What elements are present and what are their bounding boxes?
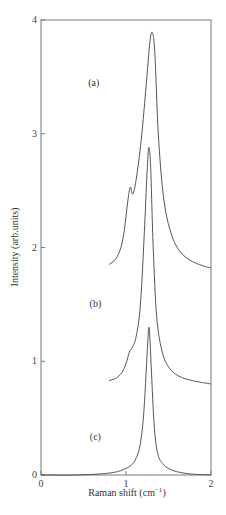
y-tick-label: 4 [32,14,37,25]
y-tick-label: 2 [32,242,37,253]
x-axis-label: Raman shift (cm−1) [88,486,165,499]
curve-label-a: (a) [88,77,99,89]
x-tick-label: 2 [209,478,214,489]
curve-c [41,327,211,475]
plot-border [41,20,211,475]
raman-chart: 01201234 (a)(b)(c) Raman shift (cm−1) In… [0,0,226,515]
curves [41,32,211,475]
plot-frame [41,20,211,475]
x-tick-label: 0 [39,478,44,489]
curve-label-c: (c) [90,431,101,443]
y-tick-label: 3 [32,128,37,139]
curve-label-b: (b) [90,298,102,310]
curve-labels: (a)(b)(c) [88,77,101,443]
y-tick-label: 1 [32,355,37,366]
y-axis-label: Intensity (arb.units) [9,208,21,287]
axis-ticks: 01201234 [32,14,214,489]
y-tick-label: 0 [32,469,37,480]
curve-b [109,147,211,384]
curve-a [109,32,211,268]
